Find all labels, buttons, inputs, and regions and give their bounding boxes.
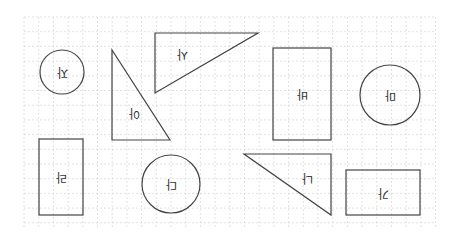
shape-circle-top-left: 자 <box>40 50 84 94</box>
triangle-outline <box>112 50 170 140</box>
shape-rect-middle: 바 <box>273 48 331 140</box>
shape-triangle-left: 아 <box>112 50 170 140</box>
shape-rect-bottom-left: 라 <box>39 139 83 215</box>
triangle-outline <box>244 154 331 215</box>
shape-label: 아 <box>129 106 140 120</box>
shapes-diagram: 자사아바마라다나가 <box>0 0 456 241</box>
triangle-outline <box>155 33 258 93</box>
shape-circle-right: 마 <box>360 65 420 125</box>
shape-label: 사 <box>177 47 188 61</box>
shape-label: 라 <box>56 170 67 184</box>
shape-triangle-bottom: 나 <box>244 154 331 215</box>
shape-label: 다 <box>166 177 177 191</box>
shape-label: 자 <box>57 65 68 79</box>
diagram-canvas: 자사아바마라다나가 <box>0 0 456 241</box>
shape-circle-bottom: 다 <box>142 155 200 213</box>
shape-label: 마 <box>385 88 396 102</box>
shapes: 자사아바마라다나가 <box>39 33 420 215</box>
shape-label: 가 <box>378 186 389 200</box>
shape-triangle-top: 사 <box>155 33 258 93</box>
shape-label: 바 <box>297 87 308 101</box>
shape-label: 나 <box>302 171 313 185</box>
grid <box>24 17 436 227</box>
